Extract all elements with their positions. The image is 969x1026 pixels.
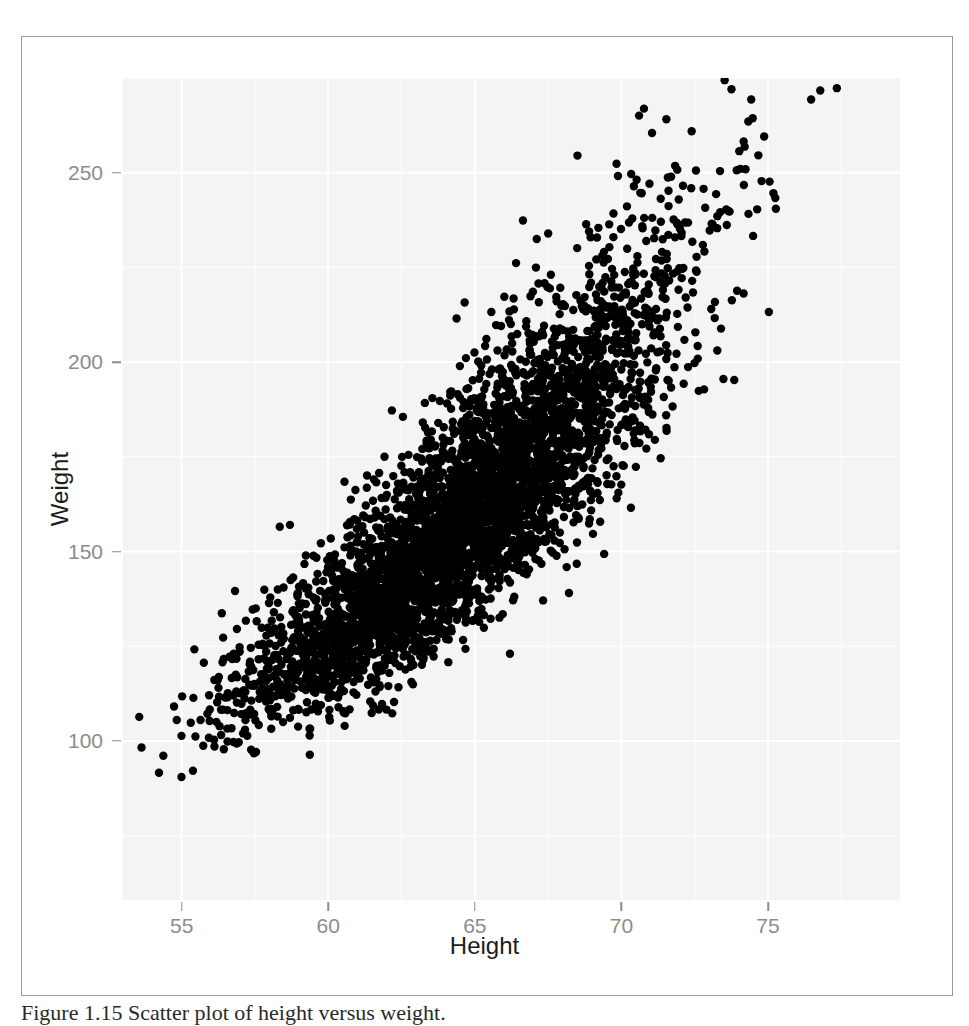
- figure-caption: Figure 1.15 Scatter plot of height versu…: [21, 1000, 921, 1026]
- y-axis-title: Weight: [46, 452, 74, 526]
- plot-panel: [123, 78, 900, 900]
- x-tick-mark: [327, 902, 329, 911]
- y-tick-label: 250: [68, 161, 103, 185]
- y-tick-mark: [112, 551, 121, 553]
- x-tick-mark: [181, 902, 183, 911]
- y-tick-label: 150: [68, 540, 103, 564]
- y-tick-mark: [112, 740, 121, 742]
- y-tick-label: 100: [68, 729, 103, 753]
- y-tick-mark: [112, 172, 121, 174]
- x-tick-mark: [767, 902, 769, 911]
- x-tick-mark: [474, 902, 476, 911]
- y-tick-label: 200: [68, 350, 103, 374]
- x-tick-mark: [621, 902, 623, 911]
- y-tick-mark: [112, 361, 121, 363]
- scatter-points-layer: [123, 78, 900, 900]
- x-axis-title: Height: [0, 932, 969, 960]
